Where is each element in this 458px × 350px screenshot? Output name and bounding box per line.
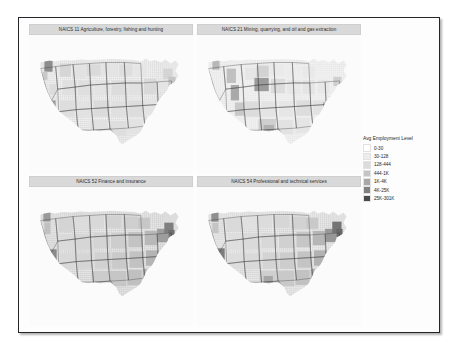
legend-swatch [363, 161, 371, 169]
facet-strip-label: NAICS 54 Professional and technical serv… [231, 179, 327, 184]
legend-label: 128-444 [374, 162, 391, 167]
facet-strip-label: NAICS 11 Agriculture, forestry, fishing … [59, 27, 163, 32]
legend-title: Avg Employment Level [363, 136, 435, 141]
facet-grid: NAICS 11 Agriculture, forestry, fishing … [29, 24, 361, 326]
legend-swatch [363, 195, 371, 203]
plot-canvas: NAICS 11 Agriculture, forestry, fishing … [19, 18, 439, 332]
legend-swatch [363, 153, 371, 161]
us-county-choropleth-naics-52 [29, 187, 193, 326]
legend-label: 1K-4K [374, 179, 387, 184]
legend-swatch [363, 144, 371, 152]
facet-panel-naics-54: NAICS 54 Professional and technical serv… [197, 176, 361, 326]
facet-body-naics-11 [29, 35, 193, 174]
legend-swatch [363, 170, 371, 178]
legend-label: 30-128 [374, 154, 388, 159]
legend-label: 444-1K [374, 171, 389, 176]
legend-items: 0-3030-128128-444444-1K1K-4K4K-25K25K-30… [363, 144, 435, 203]
facet-panel-naics-52: NAICS 52 Finance and insurance [29, 176, 193, 326]
legend-label: 0-30 [374, 146, 383, 151]
legend-item: 0-30 [363, 144, 435, 152]
us-county-choropleth-naics-11 [29, 35, 193, 174]
facet-strip-naics-21: NAICS 21 Mining, quarrying, and oil and … [197, 24, 361, 35]
legend: Avg Employment Level 0-3030-128128-44444… [363, 136, 435, 203]
legend-item: 444-1K [363, 169, 435, 177]
facet-panel-naics-21: NAICS 21 Mining, quarrying, and oil and … [197, 24, 361, 174]
legend-item: 128-444 [363, 161, 435, 169]
facet-strip-label: NAICS 52 Finance and insurance [76, 179, 146, 184]
legend-item: 1K-4K [363, 178, 435, 186]
facet-body-naics-52 [29, 187, 193, 326]
us-county-choropleth-naics-54 [197, 187, 361, 326]
figure-frame: NAICS 11 Agriculture, forestry, fishing … [18, 17, 440, 333]
legend-item: 4K-25K [363, 186, 435, 194]
facet-strip-label: NAICS 21 Mining, quarrying, and oil and … [222, 27, 337, 32]
facet-strip-naics-52: NAICS 52 Finance and insurance [29, 176, 193, 187]
facet-body-naics-54 [197, 187, 361, 326]
legend-label: 25K-301K [374, 196, 394, 201]
legend-swatch [363, 178, 371, 186]
us-county-choropleth-naics-21 [197, 35, 361, 174]
legend-item: 30-128 [363, 152, 435, 160]
legend-swatch [363, 186, 371, 194]
facet-strip-naics-11: NAICS 11 Agriculture, forestry, fishing … [29, 24, 193, 35]
legend-label: 4K-25K [374, 188, 389, 193]
legend-item: 25K-301K [363, 194, 435, 202]
facet-strip-naics-54: NAICS 54 Professional and technical serv… [197, 176, 361, 187]
facet-body-naics-21 [197, 35, 361, 174]
facet-panel-naics-11: NAICS 11 Agriculture, forestry, fishing … [29, 24, 193, 174]
